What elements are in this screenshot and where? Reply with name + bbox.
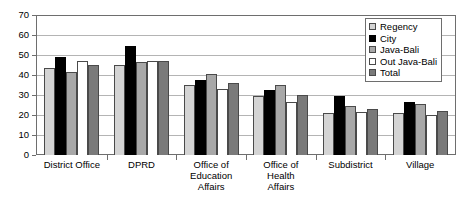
legend-swatch-icon (369, 58, 376, 65)
legend-item[interactable]: Out Java-Bali (369, 56, 437, 68)
y-tick-label: 70 (18, 10, 29, 20)
bar-group (176, 16, 246, 155)
legend-item[interactable]: Total (369, 67, 437, 79)
y-tick-mark (32, 95, 36, 96)
y-tick-label: 10 (18, 130, 29, 140)
y-tick-label: 50 (18, 50, 29, 60)
y-tick-label: 0 (24, 150, 29, 160)
bar (125, 46, 136, 155)
bar (44, 68, 55, 155)
legend-swatch-icon (369, 35, 376, 42)
bar (136, 62, 147, 155)
bar (323, 113, 334, 155)
bar (334, 96, 345, 155)
y-tick-mark (32, 15, 36, 16)
bar (77, 61, 88, 155)
bar (415, 104, 426, 155)
y-tick-label: 30 (18, 90, 29, 100)
bar (55, 57, 66, 155)
legend-swatch-icon (369, 46, 376, 53)
y-tick-mark (32, 115, 36, 116)
bar-group (37, 16, 107, 155)
y-tick-label: 20 (18, 110, 29, 120)
x-axis-label: Office of Health Affairs (246, 159, 316, 192)
bar (114, 65, 125, 155)
legend-item-label: City (380, 34, 396, 44)
x-axis-label: Subdistrict (316, 159, 386, 192)
legend-item-label: Java-Bali (380, 45, 419, 55)
legend-item-label: Regency (380, 22, 418, 32)
bar (367, 109, 378, 155)
bar (228, 83, 239, 155)
bar-group (246, 16, 316, 155)
bar-chart: 010203040506070 District OfficeDPRDOffic… (0, 0, 470, 203)
bar (275, 85, 286, 155)
bar (158, 61, 169, 155)
legend-item[interactable]: City (369, 33, 437, 45)
bar-group (107, 16, 177, 155)
bar (286, 102, 297, 155)
bar (404, 102, 415, 155)
bar (184, 85, 195, 155)
x-axis-label: Village (385, 159, 455, 192)
chart-legend: RegencyCityJava-BaliOut Java-BaliTotal (365, 18, 442, 82)
y-tick-mark (32, 75, 36, 76)
bar (393, 113, 404, 155)
y-tick-label: 40 (18, 70, 29, 80)
y-tick-mark (32, 155, 36, 156)
legend-item[interactable]: Regency (369, 21, 437, 33)
y-tick-label: 60 (18, 30, 29, 40)
y-tick-mark (32, 35, 36, 36)
legend-item-label: Total (380, 68, 400, 78)
bar (426, 115, 437, 155)
y-tick-mark (32, 55, 36, 56)
bar (206, 74, 217, 155)
bar (345, 106, 356, 155)
x-axis-label: Office of Education Affairs (176, 159, 246, 192)
legend-swatch-icon (369, 69, 376, 76)
bar (66, 72, 77, 155)
legend-swatch-icon (369, 23, 376, 30)
bar (147, 61, 158, 155)
x-axis-labels: District OfficeDPRDOffice of Education A… (37, 159, 455, 192)
y-tick-mark (32, 135, 36, 136)
y-axis: 010203040506070 (0, 0, 36, 170)
x-axis-label: DPRD (107, 159, 177, 192)
legend-item-label: Out Java-Bali (380, 57, 437, 67)
legend-item[interactable]: Java-Bali (369, 44, 437, 56)
x-axis-label: District Office (37, 159, 107, 192)
bar (88, 65, 99, 155)
bar (437, 111, 448, 155)
bar (297, 95, 308, 155)
bar (356, 112, 367, 155)
bar (195, 80, 206, 155)
bar (264, 90, 275, 155)
bar (217, 89, 228, 155)
bar (253, 96, 264, 155)
